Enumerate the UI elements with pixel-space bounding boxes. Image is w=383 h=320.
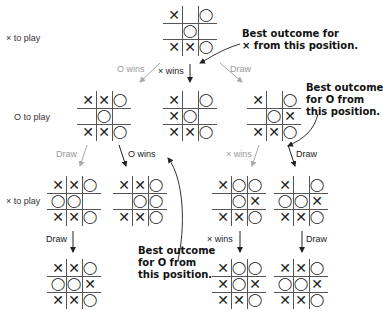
- edge-label-x-wins: × wins: [158, 66, 184, 76]
- x-mark-icon: ✕: [166, 124, 182, 140]
- x-mark-icon: ✕: [231, 209, 247, 225]
- x-mark-icon: ✕: [166, 92, 182, 108]
- o-mark-icon: ◯: [198, 7, 214, 23]
- x-mark-icon: ✕: [116, 209, 132, 225]
- annotation-x-best: Best outcome for × from this position.: [242, 28, 358, 52]
- x-mark-icon: ✕: [250, 92, 266, 108]
- o-mark-icon: ◯: [182, 23, 198, 39]
- x-mark-icon: ✕: [80, 124, 96, 140]
- o-mark-icon: ◯: [247, 177, 263, 193]
- x-mark-icon: ✕: [96, 124, 112, 140]
- o-mark-icon: ◯: [112, 124, 128, 140]
- x-mark-icon: ✕: [50, 292, 66, 308]
- o-mark-icon: ◯: [309, 177, 325, 193]
- edge-label-x-wins: × wins: [226, 149, 252, 159]
- o-mark-icon: ◯: [231, 260, 247, 276]
- o-mark-icon: ◯: [132, 193, 148, 209]
- empty-cell: [198, 108, 214, 124]
- o-mark-icon: ◯: [82, 292, 98, 308]
- x-mark-icon: ✕: [166, 7, 182, 23]
- o-mark-icon: ◯: [198, 39, 214, 55]
- x-mark-icon: ✕: [247, 276, 263, 292]
- o-mark-icon: ◯: [309, 260, 325, 276]
- empty-cell: [182, 92, 198, 108]
- o-mark-icon: ◯: [231, 177, 247, 193]
- empty-cell: [293, 177, 309, 193]
- edge-label-draw: Draw: [46, 234, 67, 244]
- o-mark-icon: ◯: [247, 260, 263, 276]
- annotation-o-best-right: Best outcome for O from this position.: [306, 82, 383, 118]
- x-mark-icon: ✕: [182, 124, 198, 140]
- o-mark-icon: ◯: [50, 193, 66, 209]
- edge-label-draw: Draw: [306, 234, 327, 244]
- x-mark-icon: ✕: [50, 209, 66, 225]
- o-mark-icon: ◯: [293, 276, 309, 292]
- o-mark-icon: ◯: [198, 124, 214, 140]
- board-leaf-d: ✕✕◯◯◯✕✕✕◯: [277, 260, 325, 308]
- note-line: for O from: [138, 257, 215, 269]
- o-mark-icon: ◯: [96, 108, 112, 124]
- empty-cell: [80, 108, 96, 124]
- empty-cell: [198, 23, 214, 39]
- o-mark-icon: ◯: [277, 276, 293, 292]
- x-mark-icon: ✕: [277, 292, 293, 308]
- x-mark-icon: ✕: [309, 276, 325, 292]
- o-mark-icon: ◯: [309, 292, 325, 308]
- o-mark-icon: ◯: [148, 209, 164, 225]
- x-mark-icon: ✕: [182, 39, 198, 55]
- board-level3-a: ✕✕◯◯◯✕✕◯: [50, 177, 98, 225]
- x-mark-icon: ✕: [215, 177, 231, 193]
- x-mark-icon: ✕: [293, 260, 309, 276]
- o-mark-icon: ◯: [66, 193, 82, 209]
- o-mark-icon: ◯: [231, 276, 247, 292]
- o-mark-icon: ◯: [82, 260, 98, 276]
- x-mark-icon: ✕: [293, 209, 309, 225]
- x-mark-icon: ✕: [215, 276, 231, 292]
- note-line: Best outcome: [306, 82, 383, 94]
- edge-label-o-wins: O wins: [128, 149, 156, 159]
- empty-cell: [112, 108, 128, 124]
- o-mark-icon: ◯: [66, 276, 82, 292]
- o-mark-icon: ◯: [309, 209, 325, 225]
- o-mark-icon: ◯: [148, 177, 164, 193]
- board-level3-c: ✕◯◯◯✕✕✕◯: [215, 177, 263, 225]
- x-mark-icon: ✕: [277, 177, 293, 193]
- edge-label-x-wins: × wins: [207, 234, 233, 244]
- edge-label-draw: Draw: [296, 149, 317, 159]
- x-mark-icon: ✕: [309, 193, 325, 209]
- edge-label-draw: Draw: [230, 64, 251, 74]
- note-line: Best outcome for: [242, 28, 358, 40]
- x-mark-icon: ✕: [50, 177, 66, 193]
- x-mark-icon: ✕: [82, 276, 98, 292]
- o-mark-icon: ◯: [293, 193, 309, 209]
- annotation-o-best-bottom: Best outcome for O from this position.: [138, 245, 215, 281]
- note-line: this position.: [138, 269, 215, 281]
- o-mark-icon: ◯: [231, 193, 247, 209]
- note-line: this position.: [306, 106, 383, 118]
- x-mark-icon: ✕: [66, 260, 82, 276]
- x-mark-icon: ✕: [215, 209, 231, 225]
- o-mark-icon: ◯: [282, 92, 298, 108]
- board-mid-center: ✕◯✕◯✕✕◯: [166, 92, 214, 140]
- edge-label-draw: Draw: [56, 149, 77, 159]
- o-mark-icon: ◯: [277, 193, 293, 209]
- o-mark-icon: ◯: [50, 276, 66, 292]
- board-leaf-c: ✕◯◯✕◯✕✕✕◯: [215, 260, 263, 308]
- x-mark-icon: ✕: [66, 177, 82, 193]
- o-mark-icon: ◯: [82, 177, 98, 193]
- x-mark-icon: ✕: [96, 92, 112, 108]
- x-mark-icon: ✕: [116, 177, 132, 193]
- board-level3-b: ✕✕◯◯◯✕✕◯: [116, 177, 164, 225]
- board-mid-left: ✕✕◯◯✕✕◯: [80, 92, 128, 140]
- empty-cell: [215, 193, 231, 209]
- x-mark-icon: ✕: [277, 260, 293, 276]
- o-mark-icon: ◯: [266, 108, 282, 124]
- note-line: Best outcome: [138, 245, 215, 257]
- x-mark-icon: ✕: [166, 39, 182, 55]
- o-mark-icon: ◯: [148, 193, 164, 209]
- x-mark-icon: ✕: [132, 177, 148, 193]
- edge-label-o-wins: O wins: [117, 64, 145, 74]
- board-root: ✕◯◯✕✕◯: [166, 7, 214, 55]
- o-mark-icon: ◯: [247, 292, 263, 308]
- empty-cell: [250, 108, 266, 124]
